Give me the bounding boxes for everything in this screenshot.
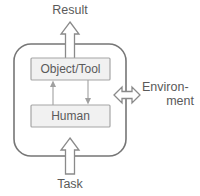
- environment-flow-arrow: [114, 87, 140, 103]
- human-label: Human: [51, 109, 90, 123]
- environment-label-line1: Environ-: [142, 80, 189, 94]
- human-to-object-head: [50, 81, 56, 88]
- object-tool-label: Object/Tool: [40, 62, 100, 76]
- environment-label-line2: ment: [166, 94, 194, 108]
- object-to-human-head: [85, 98, 91, 105]
- diagram-root: Result Object/Tool Human Environ- ment T…: [0, 0, 200, 196]
- result-label: Result: [52, 3, 88, 17]
- environment-arrow-shape: [114, 87, 140, 103]
- result-arrow-shape: [61, 22, 79, 60]
- result-flow-arrow: [61, 22, 79, 60]
- human-to-object-arrow: [50, 81, 56, 106]
- object-to-human-arrow: [85, 80, 91, 105]
- diagram-canvas: Result Object/Tool Human Environ- ment T…: [0, 0, 200, 196]
- task-label: Task: [57, 177, 83, 191]
